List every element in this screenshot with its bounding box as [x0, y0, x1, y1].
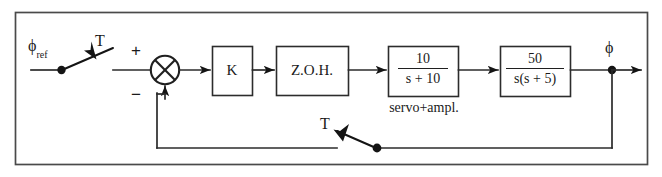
servo-denominator: s + 10 — [388, 70, 458, 87]
block-diagram-figure: ϕref T + − K Z.O.H. 10 s + 10 servo+ampl… — [0, 0, 662, 177]
input-signal-label: ϕref — [28, 38, 48, 57]
plant-fraction-bar — [506, 68, 564, 69]
block-zoh-label: Z.O.H. — [276, 63, 348, 78]
block-gain-label: K — [212, 63, 252, 78]
servo-fraction-bar — [398, 68, 448, 69]
summing-plus-sign: + — [131, 42, 141, 59]
input-sampler-label: T — [95, 33, 105, 49]
feedback-sampler-label: T — [320, 116, 330, 132]
servo-numerator: 10 — [388, 51, 458, 68]
feedback-sampler-marker — [334, 124, 350, 142]
block-plant-transfer-function: 50 s(s + 5) — [500, 51, 570, 87]
plant-denominator: s(s + 5) — [500, 70, 570, 87]
plant-numerator: 50 — [500, 51, 570, 68]
block-servo-transfer-function: 10 s + 10 — [388, 51, 458, 87]
servo-caption: servo+ampl. — [383, 101, 465, 115]
summing-minus-sign: − — [131, 86, 141, 103]
diagram-canvas — [0, 0, 662, 177]
output-signal-label: ϕ — [605, 40, 613, 56]
